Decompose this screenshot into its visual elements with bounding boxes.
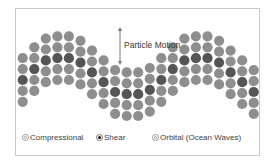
particle — [110, 65, 120, 75]
particle — [29, 53, 39, 63]
particle — [237, 55, 247, 65]
particle — [64, 31, 74, 41]
particle — [133, 78, 143, 88]
particle — [156, 97, 166, 107]
particle — [64, 75, 74, 85]
legend-item-shear[interactable]: Shear — [96, 130, 125, 144]
particle — [18, 64, 28, 74]
particle — [99, 88, 109, 98]
particle — [202, 31, 212, 41]
particle — [191, 64, 201, 74]
particle — [41, 44, 51, 54]
particle — [110, 98, 120, 108]
particle — [110, 109, 120, 119]
particle — [75, 36, 85, 46]
highlighted-particle — [133, 89, 143, 99]
highlighted-particle — [156, 75, 166, 85]
arrow-head-down-icon — [118, 61, 122, 65]
particle — [179, 44, 189, 54]
particle — [99, 55, 109, 65]
particle-motion-label: Particle Motion — [124, 40, 180, 50]
particle — [122, 100, 132, 110]
particle — [64, 42, 74, 52]
particle — [179, 77, 189, 87]
particle-motion-arrow — [118, 27, 122, 65]
particle — [168, 53, 178, 63]
highlighted-particle — [41, 55, 51, 65]
particle — [249, 109, 259, 119]
particle — [226, 78, 236, 88]
particle — [29, 86, 39, 96]
particle — [179, 34, 189, 44]
particle — [191, 31, 201, 41]
particle — [156, 64, 166, 74]
particle — [64, 64, 74, 74]
particle — [202, 75, 212, 85]
radio-unselected-icon[interactable] — [22, 134, 29, 141]
highlighted-particle — [64, 53, 74, 63]
highlighted-particle — [202, 53, 212, 63]
particle — [18, 86, 28, 96]
particle — [168, 75, 178, 85]
particle — [145, 74, 155, 84]
particle — [168, 86, 178, 96]
highlighted-particle — [52, 53, 62, 63]
particle — [75, 68, 85, 78]
particle — [156, 53, 166, 63]
particle — [41, 34, 51, 44]
particle — [29, 75, 39, 85]
highlighted-particle — [18, 75, 28, 85]
particle — [122, 78, 132, 88]
particle — [122, 111, 132, 121]
particle — [52, 42, 62, 52]
particle — [133, 67, 143, 77]
particle — [75, 79, 85, 89]
particle — [52, 75, 62, 85]
legend-label: Orbital (Ocean Waves) — [160, 133, 241, 142]
highlighted-particle — [145, 85, 155, 95]
particle — [52, 31, 62, 41]
legend-label: Shear — [104, 133, 125, 142]
particle — [145, 96, 155, 106]
particle — [41, 66, 51, 76]
highlighted-particle — [249, 87, 259, 97]
particle — [202, 64, 212, 74]
particle — [75, 47, 85, 57]
particle — [237, 66, 247, 76]
particle — [237, 88, 247, 98]
particle — [191, 42, 201, 52]
highlighted-particle — [179, 55, 189, 65]
highlighted-particle — [122, 89, 132, 99]
legend-item-orbital[interactable]: Orbital (Ocean Waves) — [152, 130, 241, 144]
particle — [52, 64, 62, 74]
particle — [202, 42, 212, 52]
particle — [87, 78, 97, 88]
particle — [110, 76, 120, 86]
particle — [145, 107, 155, 117]
legend-label: Compressional — [30, 133, 83, 142]
particle — [99, 66, 109, 76]
particle — [226, 56, 236, 66]
highlighted-particle — [87, 67, 97, 77]
particle — [18, 97, 28, 107]
particle — [99, 99, 109, 109]
highlighted-particle — [75, 58, 85, 68]
highlighted-particle — [99, 77, 109, 87]
particle — [249, 76, 259, 86]
legend-item-compressional[interactable]: Compressional — [22, 130, 83, 144]
highlighted-particle — [191, 53, 201, 63]
particle — [226, 46, 236, 56]
highlighted-particle — [237, 77, 247, 87]
particle — [122, 67, 132, 77]
particle — [249, 65, 259, 75]
particle — [18, 53, 28, 63]
particle — [237, 99, 247, 109]
highlighted-particle — [226, 67, 236, 77]
radio-selected-icon[interactable] — [96, 134, 103, 141]
particle — [41, 77, 51, 87]
radio-unselected-icon[interactable] — [152, 134, 159, 141]
particle — [191, 75, 201, 85]
particle — [214, 36, 224, 46]
particle — [133, 100, 143, 110]
highlighted-particle — [29, 64, 39, 74]
